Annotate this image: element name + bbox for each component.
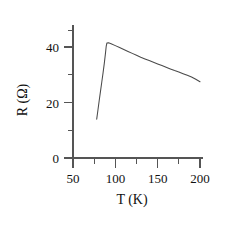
y-tick-label-0: 0 xyxy=(53,151,60,166)
y-tick-label-20: 20 xyxy=(46,96,59,111)
x-tick-label-50: 50 xyxy=(67,171,80,186)
y-axis-title: R (Ω) xyxy=(15,83,31,116)
x-tick-label-200: 200 xyxy=(190,171,210,186)
x-axis-title: T (K) xyxy=(116,192,148,208)
chart-figure: 40 20 0 50 100 150 200 T (K) R (Ω) xyxy=(0,0,226,226)
y-major-ticks xyxy=(64,47,73,158)
resistance-vs-temperature-plot: 40 20 0 50 100 150 200 T (K) R (Ω) xyxy=(0,0,226,226)
resistance-curve xyxy=(97,43,200,119)
x-tick-label-100: 100 xyxy=(106,171,126,186)
x-minor-ticks xyxy=(94,158,179,164)
x-tick-label-150: 150 xyxy=(148,171,168,186)
y-minor-ticks xyxy=(68,31,73,131)
y-tick-label-40: 40 xyxy=(46,40,59,55)
